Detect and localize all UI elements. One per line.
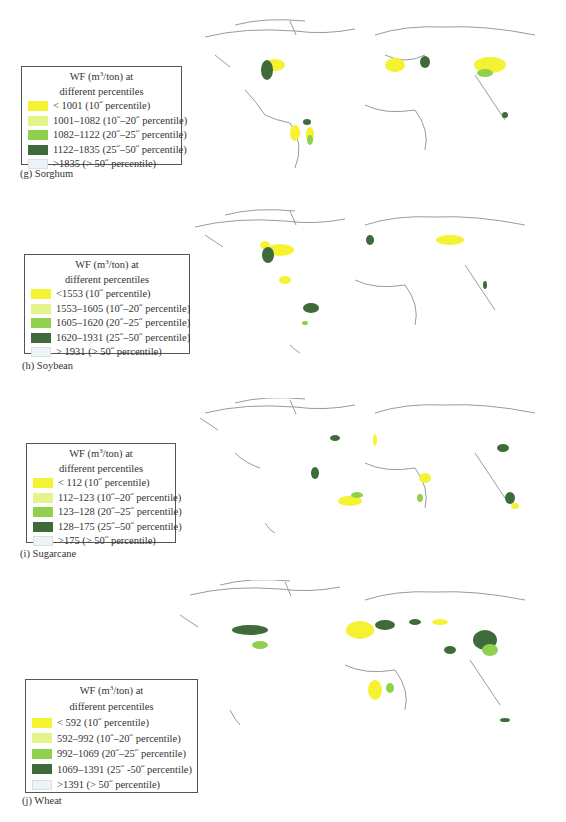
legend-item: < 1001 (10˝ percentile) (28, 99, 175, 114)
legend-sorghum: WF (m3/ton) atdifferent percentiles < 10… (21, 66, 182, 165)
caption-soybean: (h) Soybean (22, 360, 73, 371)
legend-item: >1391 (> 50˝ percentile) (32, 777, 191, 793)
legend-item: 128–175 (25˝–50˝ percentile) (33, 520, 169, 535)
world-map-wheat (150, 580, 555, 740)
legend-item: <1553 (10˝ percentile) (31, 287, 183, 302)
swatch-p25-50 (32, 764, 52, 774)
legend-wheat: WF (m3/ton) atdifferent percentiles < 59… (25, 679, 198, 793)
swatch-p25-50 (33, 522, 53, 532)
legend-item: 1620–1931 (25˝–50˝ percentile) (31, 331, 183, 346)
swatch-p25-50 (31, 333, 51, 343)
legend-item: 1001–1082 (10˝–20˝ percentile) (28, 114, 175, 129)
legend-item: 1069–1391 (25˝ -50˝ percentile) (32, 762, 191, 778)
legend-item: 1122–1835 (25˝–50˝ percentile) (28, 143, 175, 158)
legend-title: WF (m3/ton) atdifferent percentiles (32, 683, 191, 715)
swatch-p10-20 (33, 493, 53, 503)
legend-item: 1605–1620 (20˝–25˝ percentile) (31, 316, 183, 331)
swatch-p10-20 (28, 116, 48, 126)
swatch-p10 (28, 101, 48, 111)
world-map-sorghum (175, 15, 555, 175)
swatch-p10 (31, 289, 51, 299)
world-map-soybean (165, 205, 555, 365)
swatch-p10 (33, 478, 53, 488)
swatch-p50 (33, 536, 53, 546)
legend-title: WF (m3/ton) atdifferent percentiles (33, 447, 169, 476)
swatch-p10 (32, 718, 52, 728)
swatch-p20-25 (33, 507, 53, 517)
legend-title: WF (m3/ton) atdifferent percentiles (31, 258, 183, 287)
swatch-p50 (31, 347, 51, 357)
legend-item: < 112 (10˝ percentile) (33, 476, 169, 491)
legend-soybean: WF (m3/ton) atdifferent percentiles <155… (24, 254, 190, 354)
swatch-p25-50 (28, 145, 48, 155)
legend-title: WF (m3/ton) atdifferent percentiles (28, 70, 175, 99)
swatch-p50 (32, 780, 52, 790)
legend-item: > 1931 (> 50˝ percentile) (31, 345, 183, 360)
world-map-sugarcane (175, 398, 555, 543)
legend-item: 592–992 (10˝–20˝ percentile) (32, 731, 191, 747)
legend-item: 112–123 (10˝–20˝ percentile) (33, 491, 169, 506)
swatch-p10-20 (31, 304, 51, 314)
legend-item: 1553–1605 (10˝–20˝ percentile) (31, 302, 183, 317)
caption-sugarcane: (i) Sugarcane (20, 548, 76, 559)
legend-item: 123–128 (20˝–25˝ percentile) (33, 505, 169, 520)
swatch-p10-20 (32, 733, 52, 743)
caption-sorghum: (g) Sorghum (20, 168, 73, 179)
legend-item: 992–1069 (20˝–25˝ percentile) (32, 746, 191, 762)
swatch-p20-25 (28, 130, 48, 140)
legend-item: < 592 (10˝ percentile) (32, 715, 191, 731)
legend-sugarcane: WF (m3/ton) atdifferent percentiles < 11… (26, 443, 176, 543)
legend-item: >175 (> 50˝ percentile) (33, 534, 169, 549)
caption-wheat: (j) Wheat (22, 795, 62, 806)
legend-item: 1082–1122 (20˝–25˝ percentile) (28, 128, 175, 143)
swatch-p20-25 (32, 749, 52, 759)
swatch-p20-25 (31, 318, 51, 328)
